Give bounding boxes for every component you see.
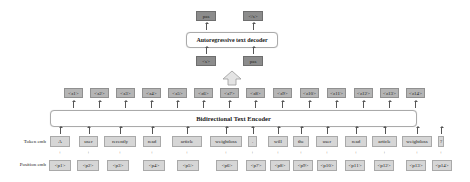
token-embedding: read bbox=[143, 136, 161, 147]
arrow-up-icon bbox=[255, 102, 256, 108]
arrow-up-icon bbox=[282, 102, 283, 108]
arrow-up-icon bbox=[363, 102, 364, 108]
position-embedding: <p14> bbox=[432, 160, 452, 171]
token-emb-label: Token emb bbox=[10, 139, 46, 144]
position-embedding: <p8> bbox=[270, 160, 290, 171]
latent-token: <z2> bbox=[90, 88, 109, 98]
arrow-up-icon bbox=[203, 102, 204, 108]
arrow-up-icon bbox=[301, 128, 302, 134]
arrow-up-icon bbox=[309, 102, 310, 108]
latent-token: <z6> bbox=[194, 88, 213, 98]
decoder-output-1: pas bbox=[196, 11, 216, 21]
arrow-up-icon bbox=[99, 102, 100, 108]
position-embedding: <p2> bbox=[77, 160, 99, 171]
plus-symbol: + bbox=[277, 150, 280, 155]
arrow-up-icon bbox=[229, 102, 230, 108]
latent-token: <z8> bbox=[246, 88, 265, 98]
token-embedding: will bbox=[268, 136, 288, 147]
position-embedding: <p6> bbox=[216, 160, 238, 171]
bidirectional-encoder-box: Bidirectional Text Encoder bbox=[50, 110, 417, 127]
latent-token: <z14> bbox=[406, 88, 425, 98]
plus-symbol: + bbox=[416, 150, 419, 155]
position-emb-label: Position emb bbox=[10, 162, 46, 167]
arrow-up-icon bbox=[226, 128, 227, 134]
plus-symbol: + bbox=[225, 150, 228, 155]
token-embedding: weightloss bbox=[402, 136, 432, 147]
arrow-up-icon bbox=[120, 128, 121, 134]
latent-token: <z1> bbox=[64, 88, 83, 98]
arrow-up-icon bbox=[356, 128, 357, 134]
token-embedding: article bbox=[172, 136, 202, 147]
arrow-up-icon bbox=[89, 128, 90, 134]
plus-symbol: + bbox=[87, 150, 90, 155]
position-embedding: <p13> bbox=[406, 160, 426, 171]
token-embedding: recently bbox=[104, 136, 136, 147]
autoregressive-decoder-box: Autoregressive text decoder bbox=[186, 32, 278, 48]
latent-token: <z9> bbox=[273, 88, 292, 98]
arrow-up-icon bbox=[417, 128, 418, 134]
plus-symbol: + bbox=[300, 150, 303, 155]
arrow-up-icon bbox=[151, 102, 152, 108]
arrow-up-icon bbox=[253, 48, 254, 54]
position-embedding: <p11> bbox=[345, 160, 365, 171]
arrow-up-icon bbox=[206, 24, 207, 30]
token-embedding: the bbox=[293, 136, 309, 147]
arrow-up-icon bbox=[177, 102, 178, 108]
position-embedding: <p3> bbox=[107, 160, 129, 171]
position-embedding: <p4> bbox=[143, 160, 165, 171]
token-embedding: weightloss bbox=[210, 136, 242, 147]
arrow-up-icon bbox=[206, 48, 207, 54]
token-embedding: ? bbox=[438, 136, 444, 147]
arrow-up-icon bbox=[73, 102, 74, 108]
arrow-up-icon bbox=[385, 128, 386, 134]
plus-symbol: + bbox=[383, 150, 386, 155]
decoder-input-1: <s> bbox=[196, 56, 216, 66]
arrow-up-icon bbox=[187, 128, 188, 134]
position-embedding: <p10> bbox=[317, 160, 337, 171]
arrow-up-icon bbox=[60, 128, 61, 134]
arrow-up-icon bbox=[278, 128, 279, 134]
plus-symbol: + bbox=[251, 150, 254, 155]
plus-symbol: + bbox=[326, 150, 329, 155]
arrow-up-icon bbox=[389, 102, 390, 108]
position-embedding: <p9> bbox=[293, 160, 313, 171]
decoder-input-2: pas bbox=[243, 56, 263, 66]
plus-symbol: + bbox=[59, 150, 62, 155]
latent-token: <z10> bbox=[300, 88, 319, 98]
token-embedding: read bbox=[345, 136, 367, 147]
plus-symbol: + bbox=[440, 150, 443, 155]
latent-token: <z4> bbox=[142, 88, 161, 98]
position-embedding: <p7> bbox=[246, 160, 266, 171]
latent-token: <z7> bbox=[220, 88, 239, 98]
arrow-up-icon bbox=[152, 128, 153, 134]
token-embedding: user bbox=[79, 136, 98, 147]
plus-symbol: + bbox=[151, 150, 154, 155]
arrow-up-icon bbox=[441, 128, 442, 134]
arrow-up-icon bbox=[415, 102, 416, 108]
position-embedding: <p1> bbox=[49, 160, 71, 171]
plus-symbol: + bbox=[355, 150, 358, 155]
arrow-up-icon bbox=[253, 24, 254, 30]
latent-token: <z3> bbox=[116, 88, 135, 98]
latent-token: <z11> bbox=[327, 88, 346, 98]
token-embedding: article bbox=[372, 136, 397, 147]
arrow-up-icon bbox=[327, 128, 328, 134]
arrow-up-icon bbox=[125, 102, 126, 108]
position-embedding: <p5> bbox=[177, 160, 199, 171]
arrow-up-icon bbox=[253, 128, 254, 134]
token-embedding: user bbox=[316, 136, 338, 147]
arrow-up-icon bbox=[336, 102, 337, 108]
plus-symbol: + bbox=[119, 150, 122, 155]
big-up-arrow-icon bbox=[222, 70, 242, 86]
latent-token: <z5> bbox=[168, 88, 187, 98]
plus-symbol: + bbox=[186, 150, 189, 155]
latent-token: <z13> bbox=[380, 88, 399, 98]
decoder-output-2: </s> bbox=[243, 11, 263, 21]
latent-token: <z12> bbox=[354, 88, 373, 98]
position-embedding: <p12> bbox=[374, 160, 394, 171]
token-embedding: A bbox=[50, 136, 70, 147]
token-embedding: . bbox=[248, 136, 257, 147]
